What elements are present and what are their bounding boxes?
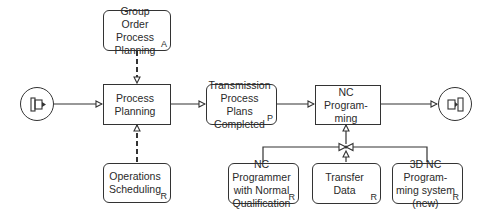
node-tag: R [453, 192, 460, 202]
node-label: Operations Scheduling [107, 170, 167, 196]
node-nc-programming[interactable]: NC Program- ming [315, 85, 381, 125]
node-transfer-data[interactable]: Transfer Data R [312, 163, 381, 204]
node-tag: R [289, 192, 296, 202]
node-label: NC Program- ming [316, 86, 380, 125]
start-process-interface[interactable] [20, 87, 54, 121]
node-operations-scheduling[interactable]: Operations Scheduling R [103, 163, 171, 203]
process-interface-in-icon [21, 88, 55, 122]
node-process-planning[interactable]: Process Planning [103, 84, 171, 125]
node-nc-programmer[interactable]: NC Programmer with Normal Qualification … [228, 163, 299, 204]
node-tag: R [161, 191, 168, 201]
node-transmission-process-plans[interactable]: Transmission Process Plans Completed P [206, 84, 277, 125]
node-label: Process Planning [113, 92, 162, 118]
node-tag: P [267, 113, 273, 123]
end-process-interface[interactable] [438, 87, 472, 121]
and-connector-icon [339, 144, 353, 151]
node-3d-nc-programming-system[interactable]: 3D NC Program- ming system (new) R [392, 163, 463, 204]
node-tag: R [371, 192, 378, 202]
node-group-order-process-planning[interactable]: Group Order Process Planning A [103, 10, 171, 51]
process-interface-out-icon [439, 88, 473, 122]
node-tag: A [161, 39, 167, 49]
